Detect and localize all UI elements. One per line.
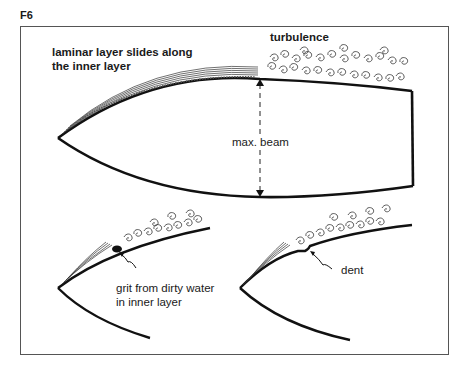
max-beam-label: max. beam — [232, 135, 289, 149]
dent-detail — [240, 205, 412, 340]
dent-swirls — [296, 205, 390, 244]
grit-label-line1: grit from dirty water — [116, 281, 214, 295]
grit-particle — [112, 246, 122, 253]
grit-label-line2: in inner layer — [116, 295, 182, 309]
laminar-label-line1: laminar layer slides along — [52, 45, 193, 59]
turbulence-swirls — [268, 45, 408, 82]
grit-swirls — [124, 210, 202, 241]
laminar-label-line2: the inner layer — [52, 59, 131, 73]
grit-detail — [58, 210, 210, 338]
turbulence-label: turbulence — [270, 30, 329, 44]
dent-label: dent — [341, 263, 363, 277]
